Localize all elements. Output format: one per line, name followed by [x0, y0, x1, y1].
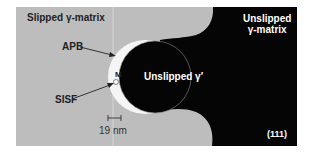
scale-bar-label: 19 nm — [99, 125, 127, 136]
unslipped-precipitate-label: Unslipped γ′ — [144, 71, 203, 82]
sisf-label: SISF — [55, 94, 77, 105]
apb-label: APB — [62, 41, 83, 52]
slipped-matrix-label: Slipped γ-matrix — [27, 12, 105, 23]
unslipped-matrix-line1: Unslipped — [243, 13, 291, 24]
unslipped-matrix-label: Unslipped γ-matrix — [243, 13, 291, 35]
m-marker-circle — [114, 80, 119, 85]
orientation-label: (111) — [267, 129, 287, 139]
m-marker-label: M — [115, 70, 122, 79]
unslipped-matrix-line2: γ-matrix — [243, 24, 291, 35]
